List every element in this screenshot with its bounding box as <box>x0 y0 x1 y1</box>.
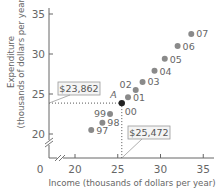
y-tick-label: 25 <box>32 88 45 100</box>
point-marker <box>107 111 113 117</box>
x-tick-label: 35 <box>197 163 210 175</box>
point-label: 99 <box>94 108 106 119</box>
data-point-01: 01 <box>125 92 145 103</box>
y-tick-label: 35 <box>32 8 45 20</box>
origin-label: 0 <box>37 163 44 175</box>
point-label: 06 <box>183 41 195 52</box>
x-tick-label: 25 <box>111 163 124 175</box>
y-tick-label: 30 <box>32 48 45 60</box>
x-tick-label: 30 <box>154 163 167 175</box>
point-label: 00 <box>125 106 137 117</box>
point-label: 05 <box>170 54 182 65</box>
y-axis-title-line2: (thousands of dollars per year) <box>16 0 26 128</box>
callout-leader-expenditure <box>49 95 70 103</box>
callout-leader-income <box>122 139 142 158</box>
point-label: 98 <box>107 117 119 128</box>
y-axis-title-line1: Expenditure <box>6 36 16 88</box>
data-point-07: 07 <box>188 28 208 39</box>
point-marker-label: A <box>109 89 117 100</box>
point-marker <box>88 127 94 133</box>
point-marker <box>99 120 105 126</box>
data-points: 97989900A01020304050607 <box>88 28 208 136</box>
point-label: 03 <box>148 76 160 87</box>
data-point-05: 05 <box>162 54 182 65</box>
data-point-03: 03 <box>140 76 160 87</box>
data-point-06: 06 <box>175 41 195 52</box>
point-marker <box>125 94 131 100</box>
x-axis-title: Income (thousands of dollars per year) <box>48 178 215 188</box>
data-point-02: 02 <box>120 79 139 93</box>
point-marker <box>188 31 194 37</box>
callout-text-expenditure: $23,862 <box>59 83 98 94</box>
point-marker <box>162 56 168 62</box>
point-marker <box>175 43 181 49</box>
data-point-97: 97 <box>88 125 108 136</box>
point-label: 07 <box>196 28 208 39</box>
x-tick-label: 20 <box>68 163 81 175</box>
point-marker <box>152 68 158 74</box>
point-marker <box>133 87 139 93</box>
callout-text-income: $25,472 <box>129 127 168 138</box>
point-label: 01 <box>133 92 145 103</box>
point-label: 02 <box>120 79 132 90</box>
point-label: 04 <box>160 66 172 77</box>
y-tick-label: 20 <box>32 128 45 140</box>
income-expenditure-chart: 20253035202530350Income (thousands of do… <box>0 0 224 191</box>
point-marker <box>140 79 146 85</box>
